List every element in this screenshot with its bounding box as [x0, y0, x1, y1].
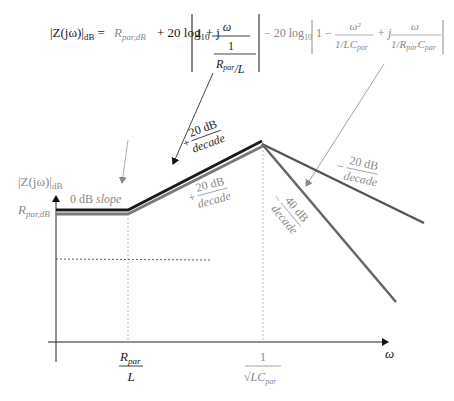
svg-text:−: − [335, 159, 345, 174]
label-down-40: − 40 dB decade [264, 186, 314, 237]
svg-text:1/LCpar: 1/LCpar [335, 38, 369, 52]
label-up-20: + 20 dB decade [178, 116, 227, 158]
svg-text:ω: ω [223, 20, 231, 34]
svg-text:1: 1 [228, 39, 234, 53]
eq-lhs: |Z(jω)| [50, 25, 84, 40]
svg-text:Rpar,dB: Rpar,dB [113, 25, 146, 42]
x-axis-label: ω [385, 346, 394, 361]
svg-text:L: L [126, 369, 134, 384]
x-tick-one: 1 [260, 350, 266, 364]
svg-text:− 20 log10: − 20 log10 [264, 26, 312, 42]
guide-horizontal [56, 259, 211, 260]
y-tick-rpar-db: R [17, 202, 26, 217]
y-axis-label: |Z(jω)| [18, 174, 52, 189]
svg-text:+ j: + j [377, 26, 392, 40]
arrow-flat-term [122, 140, 128, 183]
x-tick-rpar: R [119, 349, 128, 364]
transfer-function-equation: |Z(jω)|dB= Rpar,dB + 20 log10 1 + j ω 1 … [50, 14, 443, 76]
x-tick-sqrt-lc: √LC [244, 370, 266, 384]
svg-text:ω²: ω² [349, 20, 361, 32]
svg-text:ω: ω [411, 20, 419, 32]
label-up2-20: + 20 dB decade [185, 173, 233, 213]
svg-text:1 + j: 1 + j [196, 25, 220, 40]
svg-text:1 −: 1 − [316, 26, 332, 40]
label-flat-slope: 0 dB [70, 192, 93, 206]
svg-text:0 dB slope: 0 dB slope [70, 192, 122, 206]
svg-text:Rpar/L: Rpar/L [215, 57, 245, 76]
svg-text:√LCpar: √LCpar [244, 370, 277, 386]
svg-text:|Z(jω)|dB=: |Z(jω)|dB= [50, 25, 105, 42]
svg-text:Rpar: Rpar [119, 349, 141, 366]
bode-diagram: |Z(jω)|dB= Rpar,dB + 20 log10 1 + j ω 1 … [0, 0, 454, 401]
svg-text:1/RparCpar: 1/RparCpar [391, 38, 437, 52]
eq-rpar: R [113, 25, 122, 40]
svg-text:|Z(jω)|dB: |Z(jω)|dB [18, 174, 63, 191]
svg-text:Rpar,dB: Rpar,dB [17, 202, 50, 219]
